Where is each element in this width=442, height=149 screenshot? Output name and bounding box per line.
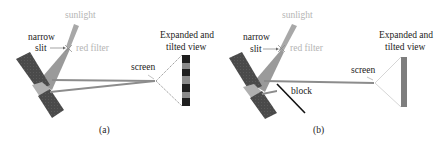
caption-b: (b) [313,125,324,136]
reflected-beam-upper [264,80,374,84]
caption-a: (a) [99,125,110,136]
label-sunlight: sunlight [282,10,313,20]
label-red-filter: red filter [76,43,110,53]
uniform-illumination [401,57,407,107]
label-expanded-line1: Expanded and [379,30,433,40]
label-slit: slit [35,43,47,53]
expansion-line-bottom [375,83,401,107]
expansion-line-top [375,57,401,83]
screen-arrow [148,75,154,79]
label-block: block [291,86,312,96]
label-narrow: narrow [243,32,270,42]
reflected-beam-upper [52,79,155,82]
label-expanded-line1: Expanded and [160,30,214,40]
label-narrow: narrow [28,32,55,42]
label-screen: screen [351,65,376,75]
double-mirror-diagram: sunlight narrow slit red filter screen E… [0,0,442,149]
mirror-upper [16,52,50,90]
label-slit: slit [250,44,262,54]
label-red-filter: red filter [290,43,324,53]
label-expanded-line2: tilted view [385,42,426,52]
expansion-line-bottom [156,81,182,106]
expansion-line-top [156,55,182,81]
label-expanded-line2: tilted view [166,42,207,52]
slit-arrowhead [276,48,279,51]
panel-a: sunlight narrow slit red filter screen E… [16,10,214,136]
screen-arrow [367,77,373,80]
panel-b: sunlight narrow slit red filter screen E… [229,10,433,136]
label-screen: screen [131,62,156,72]
reflected-beam-lower [50,80,155,93]
slit-arrowhead [63,47,66,50]
label-sunlight: sunlight [65,10,96,20]
fringe-pattern [182,55,190,106]
mirror-upper [229,52,262,92]
